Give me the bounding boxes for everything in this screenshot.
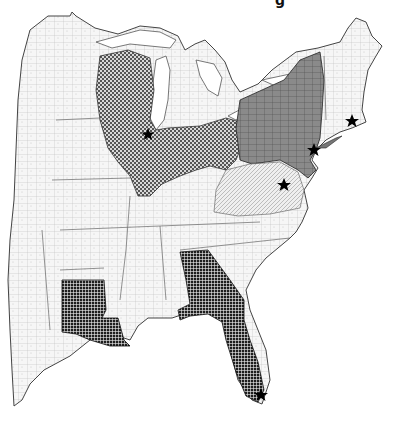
land-mass [8,12,382,406]
eastern-us-map [0,0,407,447]
region-virginia [214,162,304,216]
